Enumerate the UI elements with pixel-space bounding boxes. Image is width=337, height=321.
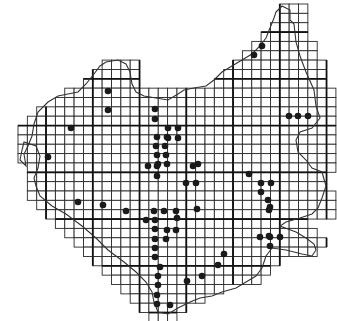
grid-cell <box>233 191 242 200</box>
grid-cell <box>46 135 55 144</box>
grid-cell <box>327 126 336 135</box>
grid-cell <box>196 219 205 228</box>
grid-cell <box>55 98 64 107</box>
grid-cell <box>186 154 195 163</box>
grid-cell <box>289 51 298 60</box>
grid-cell <box>214 200 223 209</box>
grid-cell <box>233 247 242 256</box>
grid-cell <box>205 247 214 256</box>
grid-cell <box>242 219 251 228</box>
grid-cell <box>121 116 130 125</box>
grid-cell <box>317 98 326 107</box>
grid-cell <box>112 238 121 247</box>
grid-cell <box>37 126 46 135</box>
record-dot <box>123 208 130 215</box>
grid-cell <box>242 126 251 135</box>
grid-cell <box>102 163 111 172</box>
grid-cell <box>224 191 233 200</box>
record-dot <box>154 292 161 299</box>
grid-cell <box>186 98 195 107</box>
grid-cell <box>242 79 251 88</box>
grid-cell <box>121 172 130 181</box>
grid-cell <box>205 228 214 237</box>
grid-cell <box>168 182 177 191</box>
grid-cell <box>299 32 308 41</box>
grid-cell <box>55 116 64 125</box>
grid-cell <box>252 60 261 69</box>
grid-cell <box>74 210 83 219</box>
grid-cell <box>37 135 46 144</box>
grid-cell <box>37 172 46 181</box>
grid-cell <box>214 210 223 219</box>
grid-cell <box>140 172 149 181</box>
grid-cell <box>121 219 130 228</box>
grid-cell <box>83 154 92 163</box>
record-dot <box>215 262 222 269</box>
grid-cell <box>177 294 186 303</box>
grid-cell <box>289 200 298 209</box>
grid-cell <box>233 79 242 88</box>
grid-cell <box>261 60 270 69</box>
grid-cell <box>112 275 121 284</box>
grid-cell <box>65 116 74 125</box>
record-dot <box>152 236 159 243</box>
grid-cell <box>270 191 279 200</box>
record-dot <box>164 161 171 168</box>
grid-cell <box>93 247 102 256</box>
grid-cell <box>280 200 289 209</box>
grid-cell <box>289 4 298 13</box>
grid-cell <box>308 69 317 78</box>
grid-cell <box>140 266 149 275</box>
grid-cell <box>261 88 270 97</box>
grid-cell <box>224 69 233 78</box>
record-dot <box>164 227 171 234</box>
grid-cell <box>299 13 308 22</box>
grid-cell <box>102 266 111 275</box>
grid-cell <box>317 154 326 163</box>
grid-cell <box>242 266 251 275</box>
grid-cell <box>46 144 55 153</box>
grid-cell <box>130 285 139 294</box>
grid-cell <box>252 126 261 135</box>
grid-cell <box>83 172 92 181</box>
grid-cell <box>308 135 317 144</box>
grid-cell <box>55 126 64 135</box>
grid-cell <box>242 144 251 153</box>
grid-cell <box>242 107 251 116</box>
grid-cell <box>130 69 139 78</box>
grid-cell <box>102 154 111 163</box>
grid-cell <box>112 219 121 228</box>
grid-cell <box>214 219 223 228</box>
grid-cell <box>280 163 289 172</box>
record-dot <box>154 301 161 308</box>
grid-cell <box>327 210 336 219</box>
grid-cell <box>270 32 279 41</box>
grid-cell <box>121 60 130 69</box>
record-dot <box>173 227 180 234</box>
grid-cell <box>252 256 261 265</box>
grid-cell <box>280 126 289 135</box>
grid-cell <box>65 144 74 153</box>
grid-cell <box>168 116 177 125</box>
grid-cell <box>317 88 326 97</box>
grid-cell <box>214 98 223 107</box>
grid-cell <box>65 191 74 200</box>
grid-cell <box>186 247 195 256</box>
grid-cell <box>308 144 317 153</box>
grid-cell <box>252 135 261 144</box>
grid-cell <box>280 154 289 163</box>
grid-cell <box>214 163 223 172</box>
record-dot <box>163 152 170 159</box>
grid-cell <box>242 88 251 97</box>
grid-cell <box>83 116 92 125</box>
grid-cell <box>270 88 279 97</box>
grid-cell <box>168 256 177 265</box>
grid-cell <box>224 210 233 219</box>
grid-cell <box>224 275 233 284</box>
record-dot <box>175 135 182 142</box>
grid-cell <box>186 116 195 125</box>
grid-cell <box>252 200 261 209</box>
grid-cell <box>280 144 289 153</box>
grid-cell <box>233 69 242 78</box>
grid-cell <box>289 163 298 172</box>
